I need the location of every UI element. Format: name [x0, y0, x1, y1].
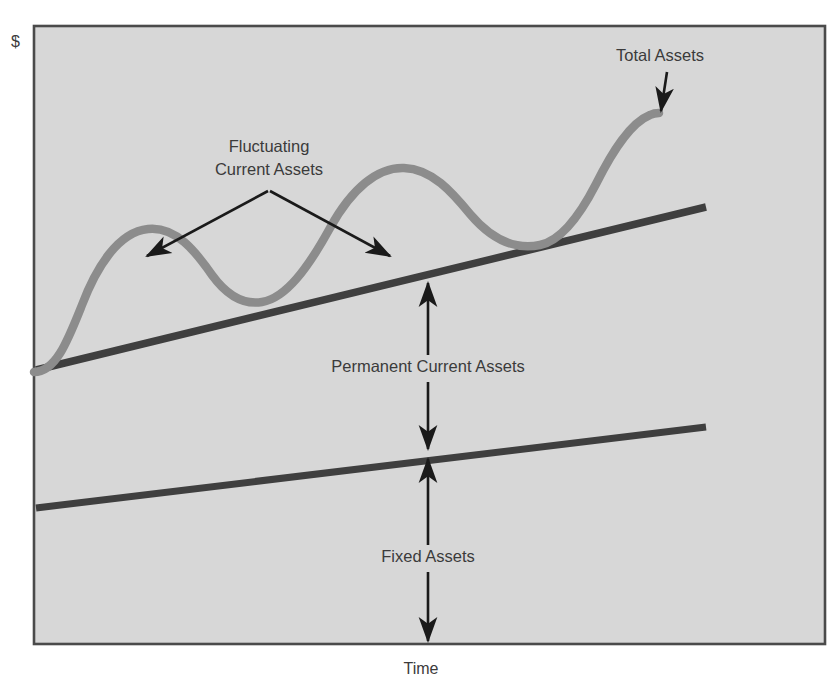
y-axis-unit-label: $ — [11, 33, 20, 50]
fixed-assets-label: Fixed Assets — [381, 547, 475, 565]
x-axis-label: Time — [404, 660, 439, 677]
total-assets-label: Total Assets — [616, 46, 704, 64]
asset-structure-chart-figure: $ Total Assets Fluctuating Current Asset… — [0, 0, 839, 687]
chart-canvas: $ Total Assets Fluctuating Current Asset… — [0, 0, 839, 687]
fluctuating-current-assets-label-line2: Current Assets — [215, 160, 323, 178]
fluctuating-current-assets-label-line1: Fluctuating — [229, 137, 310, 155]
permanent-current-assets-label: Permanent Current Assets — [331, 357, 525, 375]
